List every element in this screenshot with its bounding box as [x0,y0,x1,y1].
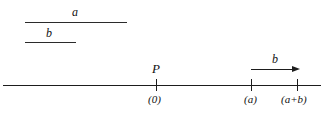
tick-a [251,79,252,91]
vector-b-arrowhead [292,66,300,72]
segment-b-label: b [46,27,52,39]
number-line-axis [3,85,321,86]
tick-zero-label: (0) [148,94,161,105]
vector-b-shaft [251,69,293,70]
tick-zero [156,79,157,91]
tick-a-plus-b-label: (a+b) [281,94,307,105]
segment-a-label: a [72,6,78,18]
tick-a-plus-b [297,79,298,91]
tick-a-label: (a) [244,94,257,105]
segment-b-line [25,42,76,43]
segment-a-line [25,22,127,23]
point-p-label: P [152,62,160,75]
number-line-figure: a b b P (0) (a) (a+b) [0,0,327,113]
vector-b-label: b [272,53,278,65]
